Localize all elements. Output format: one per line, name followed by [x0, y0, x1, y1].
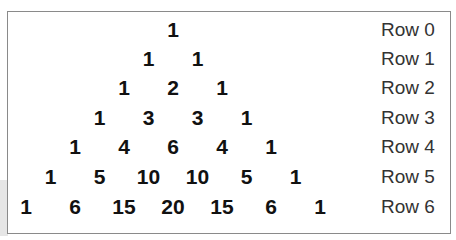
triangle-entry: 5: [94, 166, 106, 187]
row-label: Row 2: [381, 78, 435, 97]
row-label: Row 1: [381, 49, 435, 68]
triangle-entry: 3: [192, 107, 204, 128]
triangle-entry: 20: [161, 196, 184, 217]
triangle-entry: 1: [216, 77, 228, 98]
triangle-entry: 6: [69, 196, 81, 217]
triangle-entry: 1: [192, 48, 204, 69]
triangle-entry: 1: [314, 196, 326, 217]
triangle-entry: 1: [143, 48, 155, 69]
triangle-entry: 3: [143, 107, 155, 128]
triangle-entry: 6: [265, 196, 277, 217]
pascal-triangle-frame: 1Row 011Row 1121Row 21331Row 314641Row 4…: [7, 11, 451, 234]
row-label: Row 3: [381, 108, 435, 127]
row-label: Row 4: [381, 137, 435, 156]
triangle-entry: 1: [69, 136, 81, 157]
triangle-entry: 1: [265, 136, 277, 157]
triangle-entry: 10: [186, 166, 209, 187]
row-label: Row 5: [381, 167, 435, 186]
triangle-entry: 1: [167, 19, 179, 40]
triangle-entry: 15: [210, 196, 233, 217]
triangle-entry: 5: [241, 166, 253, 187]
triangle-entry: 10: [137, 166, 160, 187]
triangle-entry: 2: [167, 77, 179, 98]
triangle-entry: 1: [290, 166, 302, 187]
triangle-entry: 4: [216, 136, 228, 157]
row-label: Row 0: [381, 20, 435, 39]
triangle-entry: 1: [94, 107, 106, 128]
triangle-entry: 15: [112, 196, 135, 217]
triangle-entry: 1: [241, 107, 253, 128]
triangle-entry: 1: [118, 77, 130, 98]
triangle-entry: 6: [167, 136, 179, 157]
row-label: Row 6: [381, 197, 435, 216]
triangle-entry: 1: [45, 166, 57, 187]
triangle-entry: 1: [20, 196, 32, 217]
triangle-entry: 4: [118, 136, 130, 157]
